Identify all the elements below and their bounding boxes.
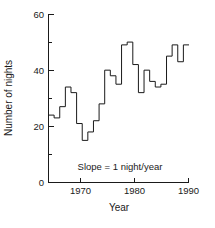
slope-annotation: Slope = 1 night/year xyxy=(78,161,163,172)
y-tick-label-0: 0 xyxy=(39,177,44,188)
data-series-step-line xyxy=(49,42,190,140)
step-chart-figure: 60 40 20 0 1970 1980 1990 Number of nigh… xyxy=(0,0,215,228)
x-axis-title: Year xyxy=(109,202,130,213)
y-tick-label-20: 20 xyxy=(33,121,44,132)
x-tick-label-1970: 1970 xyxy=(70,185,91,196)
axes-group xyxy=(49,14,190,183)
y-minor-ticks xyxy=(49,43,53,155)
y-tick-label-60: 60 xyxy=(33,9,44,20)
x-tick-label-1980: 1980 xyxy=(124,185,145,196)
y-tick-label-40: 40 xyxy=(33,65,44,76)
x-tick-label-1990: 1990 xyxy=(178,185,199,196)
x-ticks xyxy=(81,178,189,183)
chart-canvas: 60 40 20 0 1970 1980 1990 Number of nigh… xyxy=(0,0,215,228)
y-axis-title: Number of nights xyxy=(3,60,14,136)
